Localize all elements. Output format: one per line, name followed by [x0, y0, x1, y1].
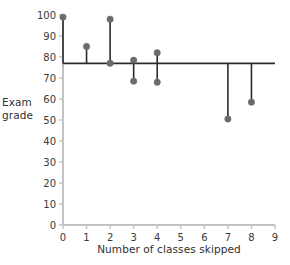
data-point: [248, 99, 254, 105]
y-tick-label: 80: [30, 52, 56, 63]
scatter-plot-figure: Exam grade 0102030405060708090100 012345…: [0, 0, 290, 265]
y-tick-label: 70: [30, 73, 56, 84]
data-point: [154, 50, 160, 56]
residual-lines: [63, 17, 251, 119]
data-point: [130, 57, 136, 63]
y-tick-label: 0: [30, 220, 56, 231]
y-tick-label: 20: [30, 178, 56, 189]
x-tick-label: 2: [101, 232, 119, 243]
y-tick-label: 30: [30, 157, 56, 168]
x-tick-label: 5: [172, 232, 190, 243]
data-point: [107, 16, 113, 22]
data-point: [107, 60, 113, 66]
x-tick-label: 0: [54, 232, 72, 243]
x-tick-label: 9: [266, 232, 284, 243]
axis-lines: [63, 14, 275, 225]
y-tick-label: 90: [30, 31, 56, 42]
x-tick-label: 7: [219, 232, 237, 243]
data-point: [83, 43, 89, 49]
x-tick-label: 3: [125, 232, 143, 243]
data-point: [60, 14, 66, 20]
y-tick-label: 10: [30, 199, 56, 210]
y-tick-label: 60: [30, 94, 56, 105]
x-tick-label: 6: [195, 232, 213, 243]
x-tick-label: 1: [78, 232, 96, 243]
x-axis-title: Number of classes skipped: [55, 243, 283, 255]
y-tick-label: 100: [30, 10, 56, 21]
data-point: [130, 78, 136, 84]
x-tick-label: 4: [148, 232, 166, 243]
axis-ticks: [59, 15, 275, 229]
y-tick-label: 50: [30, 115, 56, 126]
y-tick-label: 40: [30, 136, 56, 147]
x-tick-label: 8: [242, 232, 260, 243]
data-point: [154, 79, 160, 85]
data-point: [225, 116, 231, 122]
